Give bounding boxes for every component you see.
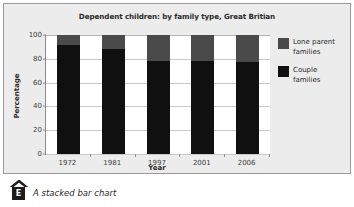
legend-swatch-icon bbox=[278, 66, 289, 77]
bar-segment[interactable] bbox=[236, 35, 259, 62]
bar-segment[interactable] bbox=[57, 45, 80, 154]
x-tick-mark bbox=[179, 154, 180, 157]
figure-caption-row: E A stacked bar chart bbox=[0, 176, 354, 207]
x-tick-mark bbox=[269, 154, 270, 157]
plot-area: 020406080100 bbox=[45, 35, 270, 155]
chart-title: Dependent children: by family type, Grea… bbox=[4, 12, 350, 21]
bar-group[interactable] bbox=[147, 35, 170, 154]
legend-label: Lone parent families bbox=[293, 38, 335, 57]
bar-segment[interactable] bbox=[191, 35, 214, 61]
chart-panel: Dependent children: by family type, Grea… bbox=[3, 3, 351, 174]
x-axis-title: Year bbox=[45, 164, 269, 172]
bar-segment[interactable] bbox=[191, 61, 214, 154]
chart-legend: Lone parent familiesCouple families bbox=[278, 38, 350, 94]
y-tick-label: 0 bbox=[38, 150, 42, 158]
bar-segment[interactable] bbox=[102, 49, 125, 154]
bar-segment[interactable] bbox=[102, 35, 125, 49]
bars-layer bbox=[46, 35, 270, 154]
x-tick-mark bbox=[90, 154, 91, 157]
bar-segment[interactable] bbox=[147, 35, 170, 61]
y-tick-label: 40 bbox=[33, 102, 42, 110]
legend-item[interactable]: Couple families bbox=[278, 66, 350, 85]
bar-group[interactable] bbox=[102, 35, 125, 154]
x-tick-mark bbox=[224, 154, 225, 157]
caret-up-icon bbox=[6, 176, 32, 187]
y-tick-label: 80 bbox=[33, 55, 42, 63]
y-tick-label: 20 bbox=[33, 126, 42, 134]
y-tick-label: 60 bbox=[33, 79, 42, 87]
legend-swatch-icon bbox=[278, 38, 289, 49]
y-axis-title: Percentage bbox=[13, 73, 21, 118]
figure-badge: E bbox=[12, 187, 25, 200]
screenshot-root: Dependent children: by family type, Grea… bbox=[0, 0, 354, 207]
bar-group[interactable] bbox=[57, 35, 80, 154]
gridline bbox=[46, 154, 270, 155]
bar-segment[interactable] bbox=[57, 35, 80, 45]
bar-segment[interactable] bbox=[147, 61, 170, 154]
y-tick-label: 100 bbox=[29, 31, 42, 39]
x-tick-mark bbox=[135, 154, 136, 157]
bar-group[interactable] bbox=[191, 35, 214, 154]
bar-group[interactable] bbox=[236, 35, 259, 154]
legend-item[interactable]: Lone parent families bbox=[278, 38, 350, 57]
figure-caption: A stacked bar chart bbox=[33, 188, 116, 198]
plot-wrapper: 020406080100 19721981199720012006 bbox=[45, 35, 269, 157]
legend-label: Couple families bbox=[293, 66, 320, 85]
bar-segment[interactable] bbox=[236, 62, 259, 154]
